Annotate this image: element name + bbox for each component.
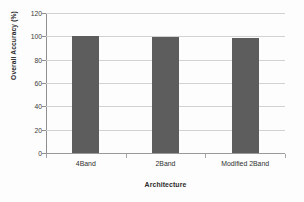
x-axis-title: Architecture	[46, 181, 285, 188]
y-tick-label: 60	[14, 80, 42, 87]
x-tick-label: 2Band	[156, 160, 176, 167]
x-tick-label: 4Band	[76, 160, 96, 167]
bar-series	[46, 13, 285, 153]
y-tick-mark	[42, 36, 46, 37]
bar[interactable]	[72, 36, 99, 153]
y-tick-mark	[42, 130, 46, 131]
x-tick-mark	[46, 154, 47, 158]
y-tick-label: 80	[14, 56, 42, 63]
x-axis-tick-labels: 4Band2BandModified 2Band	[46, 160, 285, 174]
y-tick-mark	[42, 83, 46, 84]
x-tick-mark	[126, 154, 127, 158]
y-tick-mark	[42, 106, 46, 107]
x-tick-mark	[205, 154, 206, 158]
plot-area	[46, 13, 285, 153]
y-tick-label: 100	[14, 33, 42, 40]
y-tick-label: 120	[14, 10, 42, 17]
bar[interactable]	[152, 37, 179, 153]
y-tick-label: 40	[14, 103, 42, 110]
y-tick-label: 20	[14, 126, 42, 133]
y-tick-mark	[42, 60, 46, 61]
y-tick-label: 0	[14, 150, 42, 157]
gridline	[46, 153, 285, 154]
bar-chart-figure: Overall Accuracy (%) 020406080100120 4Ba…	[0, 0, 304, 202]
y-tick-mark	[42, 13, 46, 14]
x-tick-mark	[285, 154, 286, 158]
x-tick-label: Modified 2Band	[221, 160, 269, 167]
bar[interactable]	[232, 38, 259, 153]
y-axis-tick-labels: 020406080100120	[14, 0, 42, 202]
